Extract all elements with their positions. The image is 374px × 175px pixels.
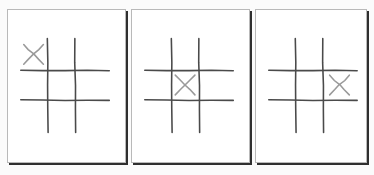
- mark-x-top-left: [24, 45, 44, 65]
- grid-line-vertical-2: [323, 39, 324, 133]
- grid-line-horizontal-1: [269, 70, 357, 71]
- tic-tac-toe-grid-2: [132, 10, 249, 162]
- grid-line-horizontal-2: [269, 100, 357, 101]
- grid-line-vertical-1: [171, 39, 172, 133]
- board-panel-1[interactable]: [7, 9, 126, 163]
- grid-line-horizontal-2: [21, 100, 109, 101]
- panel-sequence-stage: [0, 0, 374, 175]
- grid-line-horizontal-1: [145, 70, 233, 71]
- tic-tac-toe-grid-3: [256, 10, 366, 162]
- grid-line-vertical-2: [75, 39, 76, 133]
- mark-x-center: [175, 75, 195, 95]
- grid-line-horizontal-2: [145, 100, 233, 101]
- grid-line-horizontal-1: [21, 70, 109, 71]
- tic-tac-toe-grid-1: [8, 10, 125, 162]
- grid-line-vertical-1: [295, 39, 296, 133]
- grid-line-vertical-2: [199, 39, 200, 133]
- grid-line-vertical-1: [47, 39, 48, 133]
- mark-x-middle-right: [330, 75, 350, 95]
- board-panel-2[interactable]: [131, 9, 250, 163]
- board-panel-3[interactable]: [255, 9, 367, 163]
